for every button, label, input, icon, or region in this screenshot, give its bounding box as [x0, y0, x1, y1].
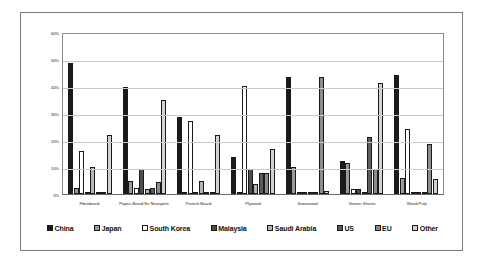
bar[interactable]: [362, 192, 367, 194]
bar[interactable]: [150, 188, 155, 194]
plot-grid: [62, 33, 444, 195]
gridline: [63, 169, 443, 170]
bar[interactable]: [199, 181, 204, 194]
bar[interactable]: [264, 173, 269, 194]
bar[interactable]: [378, 83, 383, 194]
bar[interactable]: [134, 188, 139, 194]
bar[interactable]: [367, 137, 372, 194]
plot-area: 0%10%20%30%40%50%60% FibreboardPaper+Boa…: [41, 33, 444, 208]
legend-label: Saudi Arabia: [275, 225, 316, 232]
legend-item[interactable]: South Korea: [142, 225, 190, 232]
bar[interactable]: [394, 75, 399, 194]
bar[interactable]: [96, 192, 101, 194]
legend-swatch-icon: [47, 225, 53, 231]
y-axis-tick-label: 40%: [51, 85, 59, 90]
bar-group: [389, 34, 443, 194]
x-axis-labels: FibreboardPaper+Board Ex NewsprintPartic…: [62, 196, 444, 210]
gridline: [63, 115, 443, 116]
bar[interactable]: [79, 151, 84, 194]
legend-item[interactable]: Japan: [94, 225, 121, 232]
legend-swatch-icon: [267, 225, 273, 231]
bar[interactable]: [68, 63, 73, 194]
bar[interactable]: [351, 189, 356, 194]
bar[interactable]: [242, 86, 247, 194]
y-axis-tick-label: 0%: [53, 193, 59, 198]
bar[interactable]: [156, 182, 161, 194]
bar[interactable]: [237, 192, 242, 194]
bar-group: [334, 34, 388, 194]
legend-item[interactable]: China: [47, 225, 73, 232]
bar[interactable]: [107, 135, 112, 194]
bar[interactable]: [405, 129, 410, 194]
chart-figure: 0%10%20%30%40%50%60% FibreboardPaper+Boa…: [20, 12, 463, 251]
legend-swatch-icon: [142, 225, 148, 231]
bar[interactable]: [74, 188, 79, 194]
bar[interactable]: [400, 178, 405, 194]
bar[interactable]: [259, 173, 264, 194]
bar[interactable]: [248, 169, 253, 194]
bar[interactable]: [416, 192, 421, 194]
legend-swatch-icon: [94, 225, 100, 231]
legend-item[interactable]: EU: [375, 225, 392, 232]
bar[interactable]: [308, 192, 313, 194]
y-axis-tick-label: 30%: [51, 112, 59, 117]
bar[interactable]: [123, 87, 128, 194]
bar[interactable]: [297, 192, 302, 194]
bar[interactable]: [231, 157, 236, 194]
bar[interactable]: [139, 169, 144, 194]
x-axis-label: Particle Board: [171, 196, 226, 210]
legend-label: EU: [382, 225, 392, 232]
bar[interactable]: [324, 191, 329, 194]
bar-group: [63, 34, 117, 194]
bar[interactable]: [85, 192, 90, 194]
bar[interactable]: [313, 192, 318, 194]
bar[interactable]: [188, 121, 193, 194]
bar[interactable]: [286, 77, 291, 194]
legend-label: Malaysia: [218, 225, 246, 232]
legend-item[interactable]: Malaysia: [211, 225, 247, 232]
bar[interactable]: [177, 117, 182, 194]
x-axis-label: Veneer Sheets: [335, 196, 390, 210]
chart-legend: ChinaJapanSouth KoreaMalaysiaSaudi Arabi…: [41, 217, 444, 239]
y-axis-tick-label: 10%: [51, 166, 59, 171]
bar[interactable]: [433, 179, 438, 194]
legend-swatch-icon: [211, 225, 217, 231]
bar-groups: [63, 34, 443, 194]
y-axis-tick-label: 60%: [51, 31, 59, 36]
gridline: [63, 88, 443, 89]
bar[interactable]: [253, 184, 258, 194]
bar[interactable]: [204, 192, 209, 194]
bar[interactable]: [270, 149, 275, 194]
bar[interactable]: [345, 163, 350, 194]
legend-label: Japan: [102, 225, 122, 232]
bar[interactable]: [101, 192, 106, 194]
bar[interactable]: [356, 189, 361, 194]
bar[interactable]: [210, 192, 215, 194]
x-axis-label: Plywood: [226, 196, 281, 210]
bar[interactable]: [291, 167, 296, 194]
x-axis-label: Wood Pulp: [389, 196, 444, 210]
bar-group: [226, 34, 280, 194]
legend-swatch-icon: [375, 225, 381, 231]
bar[interactable]: [340, 161, 345, 194]
legend-item[interactable]: Saudi Arabia: [267, 225, 316, 232]
bar[interactable]: [128, 181, 133, 194]
legend-label: Other: [420, 225, 438, 232]
bar[interactable]: [302, 192, 307, 194]
bar[interactable]: [90, 167, 95, 194]
bar[interactable]: [215, 135, 220, 194]
legend-item[interactable]: US: [337, 225, 354, 232]
x-axis-label: Sawnwood: [280, 196, 335, 210]
bar[interactable]: [319, 77, 324, 194]
bar[interactable]: [373, 169, 378, 194]
x-axis-label: Fibreboard: [62, 196, 117, 210]
legend-item[interactable]: Other: [412, 225, 438, 232]
bar[interactable]: [411, 192, 416, 194]
y-axis-tick-label: 20%: [51, 139, 59, 144]
bar[interactable]: [422, 192, 427, 194]
legend-label: US: [344, 225, 354, 232]
bar[interactable]: [145, 189, 150, 194]
bar[interactable]: [193, 192, 198, 194]
bar[interactable]: [182, 192, 187, 194]
gridline: [63, 61, 443, 62]
